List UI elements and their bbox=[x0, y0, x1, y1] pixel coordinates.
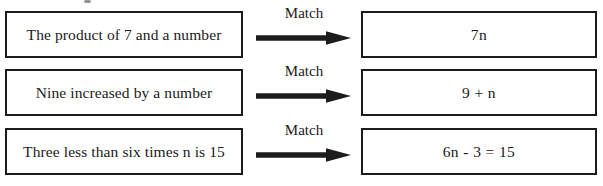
phrase-text: The product of 7 and a number bbox=[27, 27, 222, 43]
match-connector-3: Match bbox=[252, 128, 356, 175]
match-label: Match bbox=[252, 123, 356, 138]
arrow-right-icon bbox=[256, 30, 352, 46]
expression-text: 9 + n bbox=[462, 85, 496, 101]
match-label: Match bbox=[252, 64, 356, 79]
expression-box-2[interactable]: 9 + n bbox=[361, 69, 597, 116]
match-row: The product of 7 and a number Match 7n bbox=[0, 11, 603, 69]
expression-text: 6n - 3 = 15 bbox=[443, 144, 516, 160]
arrow-right-icon bbox=[256, 147, 352, 163]
expression-box-3[interactable]: 6n - 3 = 15 bbox=[361, 128, 597, 175]
match-connector-2: Match bbox=[252, 69, 356, 116]
match-worksheet: The product of 7 and a number Match 7n N… bbox=[0, 0, 603, 186]
arrow-right-icon bbox=[256, 88, 352, 104]
match-row: Nine increased by a number Match 9 + n bbox=[0, 69, 603, 127]
match-connector-1: Match bbox=[252, 11, 356, 58]
expression-text: 7n bbox=[471, 27, 487, 43]
phrase-box-3[interactable]: Three less than six times n is 15 bbox=[5, 128, 243, 175]
expression-box-1[interactable]: 7n bbox=[361, 11, 597, 58]
phrase-text: Nine increased by a number bbox=[36, 85, 212, 101]
phrase-box-1[interactable]: The product of 7 and a number bbox=[5, 11, 243, 58]
phrase-box-2[interactable]: Nine increased by a number bbox=[5, 69, 243, 116]
scan-artifact bbox=[84, 0, 91, 3]
match-row: Three less than six times n is 15 Match … bbox=[0, 128, 603, 186]
match-label: Match bbox=[252, 6, 356, 21]
phrase-text: Three less than six times n is 15 bbox=[23, 144, 225, 160]
